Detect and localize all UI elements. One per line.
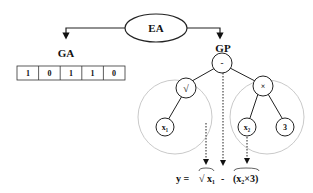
multiply-node: × bbox=[253, 76, 273, 96]
ga-chromosome: 1 0 1 1 0 bbox=[17, 66, 125, 80]
svg-text:x₁: x₁ bbox=[162, 123, 169, 132]
sqrt-node: √ bbox=[176, 78, 196, 98]
ga-label: GA bbox=[58, 47, 75, 59]
svg-text:×: × bbox=[261, 82, 266, 91]
left-subtree-halo bbox=[138, 80, 212, 154]
const-3-node: 3 bbox=[276, 118, 294, 136]
ea-label: EA bbox=[148, 22, 163, 34]
equation: y = √ x₁ - (x₂×3) bbox=[176, 173, 258, 185]
diagram-svg: EA GA GP 1 0 1 1 0 - √ × x₁ bbox=[0, 0, 313, 193]
equation-lhs: y = bbox=[176, 173, 190, 184]
gene-5: 0 bbox=[112, 69, 116, 78]
ea-diagram: EA GA GP 1 0 1 1 0 - √ × x₁ bbox=[0, 0, 313, 193]
ea-to-ga-connector bbox=[66, 28, 125, 36]
equation-term1: √ x₁ bbox=[199, 173, 215, 184]
equation-term2: (x₂×3) bbox=[233, 173, 258, 185]
svg-text:x₂: x₂ bbox=[244, 123, 251, 132]
gp-label: GP bbox=[215, 42, 231, 54]
gene-4: 1 bbox=[91, 69, 95, 78]
ea-to-gp-connector bbox=[187, 28, 220, 36]
svg-text:√: √ bbox=[183, 83, 189, 94]
equation-operator: - bbox=[221, 173, 224, 184]
x1-node: x₁ bbox=[156, 118, 174, 136]
gene-1: 1 bbox=[26, 69, 30, 78]
x2-node: x₂ bbox=[238, 118, 256, 136]
ea-node: EA bbox=[125, 14, 187, 42]
svg-text:3: 3 bbox=[283, 123, 287, 132]
svg-text:-: - bbox=[221, 58, 224, 68]
gene-3: 1 bbox=[69, 69, 73, 78]
gp-root-node: - bbox=[212, 53, 232, 73]
gene-2: 0 bbox=[48, 69, 52, 78]
